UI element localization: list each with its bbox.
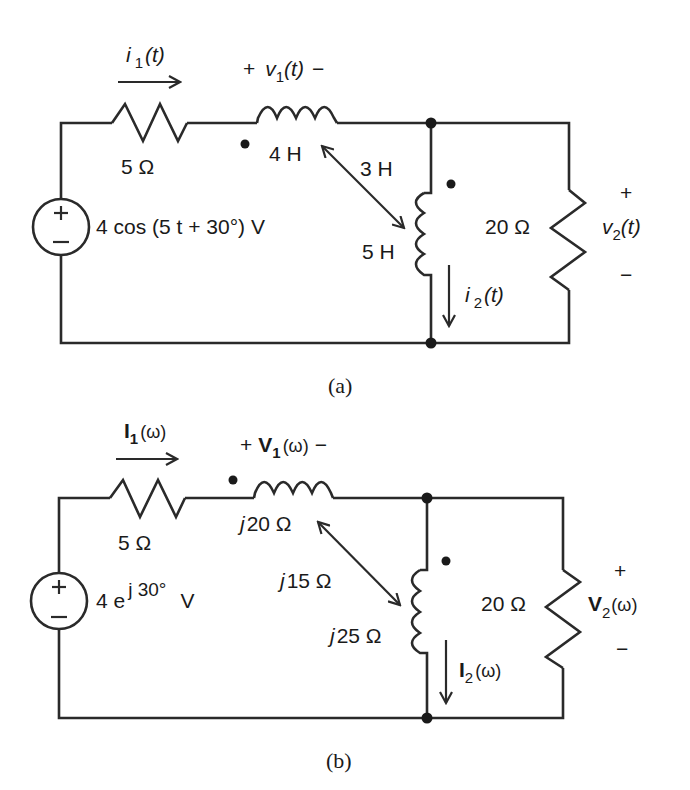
polarity-dot-2-a (447, 180, 456, 189)
node-top-a (426, 118, 437, 129)
inductor-j20 (254, 482, 333, 498)
caption-b: (b) (326, 748, 352, 773)
polarity-dot-2-b (442, 557, 451, 566)
label-V2: V2(ω) (588, 592, 637, 621)
label-i1: i1(t) (126, 43, 165, 71)
mutual-impedance-arrow-b (318, 522, 400, 605)
inductor-5h (416, 193, 431, 343)
inductor-j25 (412, 570, 427, 718)
label-l1-a: 4 H (269, 142, 302, 165)
resistor-5ohm-a (112, 104, 187, 141)
polarity-dot-1-a (241, 140, 250, 149)
label-i2: i2(t) (465, 283, 504, 311)
resistor-20ohm-a (551, 190, 585, 290)
label-V2-minus-b: − (616, 637, 628, 660)
label-r2-b: 20 Ω (481, 592, 526, 615)
label-r1-b: 5 Ω (118, 531, 151, 554)
label-I2: I2(ω) (459, 658, 501, 686)
circuit-b: I1(ω) +V1(ω)− 5 Ω j20 Ω j15 Ω j25 Ω 4 ej… (31, 419, 637, 773)
polarity-dot-1-b (229, 476, 238, 485)
inductor-4h (257, 107, 337, 123)
resistor-5ohm-b (110, 480, 185, 517)
node-top-b (422, 493, 433, 504)
label-v1: +v1(t)− (243, 57, 324, 85)
wire-node-down-a (424, 123, 431, 193)
label-I1: I1(ω) (124, 419, 166, 447)
label-v2-minus-a: − (620, 263, 632, 286)
node-bottom-a (426, 338, 437, 349)
node-bottom-b (422, 713, 433, 724)
wire-left-a (61, 123, 112, 199)
voltage-source-b (31, 573, 87, 629)
label-v2-plus-a: + (620, 181, 632, 204)
label-v2-a: v2(t) (602, 215, 641, 243)
label-V2-plus-b: + (614, 559, 626, 582)
caption-a: (a) (328, 373, 352, 398)
wire-left-b (59, 498, 110, 573)
circuit-a: i1(t) +v1(t)− 5 Ω 4 H 3 H 5 H 4 cos (5 t… (33, 43, 641, 398)
label-source-b: 4 ej 30°V (96, 579, 194, 612)
label-V1: +V1(ω)− (240, 433, 327, 461)
resistor-20ohm-b (546, 570, 580, 668)
wire-node-down-b (420, 498, 427, 570)
voltage-source-a (33, 199, 89, 255)
label-r1-a: 5 Ω (121, 155, 154, 178)
label-r2-a: 20 Ω (485, 215, 530, 238)
label-source-a: 4 cos (5 t + 30°) V (96, 215, 265, 238)
label-l2-b: j25 Ω (327, 624, 382, 647)
label-l1-b: j20 Ω (237, 512, 292, 535)
label-m-b: j15 Ω (277, 569, 332, 592)
label-l2-a: 5 H (362, 240, 395, 263)
label-m-a: 3 H (360, 157, 393, 180)
circuit-diagrams: i1(t) +v1(t)− 5 Ω 4 H 3 H 5 H 4 cos (5 t… (0, 0, 690, 790)
